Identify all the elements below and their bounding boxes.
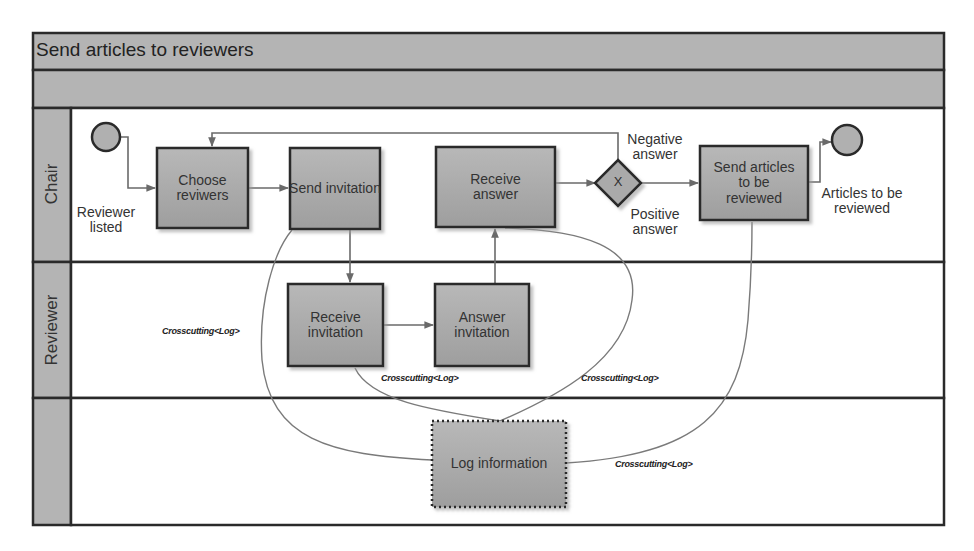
gateway-negative-label: Negative answer [620,132,690,163]
end-event-label: Articles to be reviewed [812,186,912,217]
start-event-label: Reviewer listed [76,205,136,236]
pool-title: Send articles to reviewers [36,40,254,61]
crosscutting-label-3: Crosscutting<Log> [581,373,658,383]
crosscutting-label-2: Crosscutting<Log> [381,373,458,383]
task-send-invitation-label: Send invitation [290,148,380,229]
gateway-x-icon: X [608,175,628,189]
task-answer-invitation-label: Answer invitation [435,284,529,366]
lane-label-chair: Chair [42,154,62,214]
task-choose-reviewers-label: Choose reviwers [157,148,248,228]
task-log-information-label: Log information [432,421,566,507]
lane-header-log [33,398,71,525]
crosscutting-label-1: Crosscutting<Log> [162,326,239,336]
task-send-articles-label: Send articles to be reviewed [700,146,808,220]
gateway-positive-label: Positive answer [620,207,690,238]
pool-second-band [33,70,944,108]
crosscutting-label-4: Crosscutting<Log> [615,459,692,469]
end-event[interactable] [832,125,862,155]
task-receive-answer-label: Receive answer [436,147,555,227]
lane-label-reviewer: Reviewer [42,290,62,370]
start-event[interactable] [92,123,120,151]
task-receive-invitation-label: Receive invitation [288,284,383,366]
